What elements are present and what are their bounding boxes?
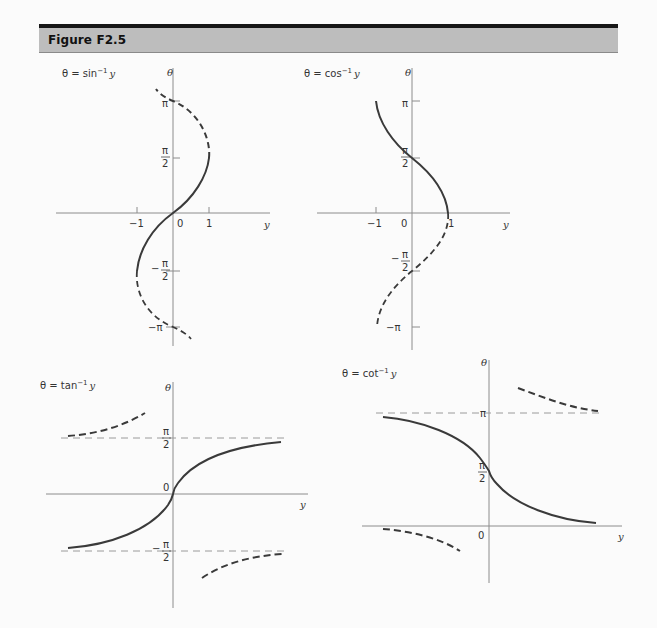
y-axis-label: y — [263, 219, 270, 230]
arccot-lower-dashed — [383, 529, 460, 551]
arccot-upper-dashed — [518, 388, 598, 411]
tick-half-pi-num: π — [162, 145, 168, 156]
arccos-lower-dashed — [377, 213, 448, 327]
panel-title: θ = sin−1y — [62, 67, 116, 79]
arctan-upper-dashed — [68, 413, 145, 436]
svg-text:2: 2 — [163, 439, 169, 450]
tick-neg-half-pi-den: 2 — [162, 271, 168, 282]
panel-arcsin: θ = sin−1y θ y −1 0 1 π π 2 − π 2 −π — [56, 67, 270, 346]
tick-origin: 0 — [478, 530, 484, 541]
svg-text:π: π — [163, 539, 169, 550]
theta-axis-label: θ — [165, 382, 171, 393]
tick-neg-pi: −π — [148, 322, 162, 333]
tick-neg-half-pi-num: π — [162, 258, 168, 269]
svg-text:π: π — [402, 249, 408, 260]
svg-text:2: 2 — [402, 262, 408, 273]
panel-arccos: θ = cos−1y θ y −1 0 1 π π 2 − π 2 −π — [304, 67, 510, 350]
svg-text:2: 2 — [402, 158, 408, 169]
tick-origin: 0 — [401, 218, 407, 229]
tick-pi: π — [162, 98, 168, 109]
panel-title: θ = cos−1y — [304, 67, 360, 79]
svg-text:2: 2 — [163, 552, 169, 563]
tick-pi: π — [480, 408, 486, 419]
panel-title: θ = tan−1y — [40, 379, 96, 391]
tick-half-pi-den: 2 — [162, 158, 168, 169]
svg-text:π: π — [163, 426, 169, 437]
y-axis-label: y — [299, 499, 306, 510]
panel-arccot: θ = cot−1y θ y 0 π π 2 — [342, 357, 624, 583]
panel-title: θ = cot−1y — [342, 367, 397, 379]
theta-axis-label: θ — [481, 357, 487, 368]
tick-origin: 0 — [177, 218, 183, 229]
panel-arctan: θ = tan−1y θ y 0 π 2 − π 2 — [40, 379, 308, 608]
y-axis-label: y — [502, 219, 509, 230]
tick-origin: 0 — [163, 482, 169, 493]
tick-pi: π — [402, 98, 408, 109]
theta-axis-label: θ — [405, 67, 411, 78]
figure-canvas: θ = sin−1y θ y −1 0 1 π π 2 − π 2 −π θ = — [0, 0, 657, 628]
tick-neg-one: −1 — [129, 218, 144, 229]
arctan-principal-curve — [68, 442, 281, 548]
svg-text:−: − — [152, 543, 160, 554]
tick-neg-pi: −π — [386, 322, 400, 333]
arctan-lower-dashed — [202, 554, 282, 578]
tick-neg-one: −1 — [367, 218, 382, 229]
y-axis-label: y — [617, 531, 624, 542]
svg-text:2: 2 — [479, 473, 485, 484]
theta-axis-label: θ — [167, 67, 173, 78]
tick-one: 1 — [448, 218, 454, 229]
svg-text:−: − — [391, 253, 399, 264]
tick-one: 1 — [206, 218, 212, 229]
svg-text:−: − — [151, 263, 159, 274]
